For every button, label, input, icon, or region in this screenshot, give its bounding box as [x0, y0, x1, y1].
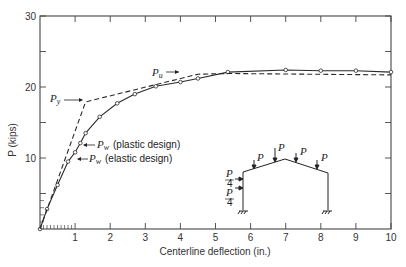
x-tick-label: 9 [353, 232, 359, 243]
plot-frame [40, 16, 391, 229]
x-tick-label: 10 [385, 232, 397, 243]
series-experimental-line [40, 70, 391, 229]
svg-text:(elastic design): (elastic design) [105, 153, 172, 164]
annotation-py: Py [49, 92, 83, 106]
svg-text:Py: Py [49, 92, 61, 106]
svg-text:Pw: Pw [96, 138, 110, 152]
x-tick-label: 6 [248, 232, 254, 243]
data-point-marker [115, 102, 119, 106]
x-tick-label: 1 [72, 232, 78, 243]
x-tick-label: 5 [213, 232, 219, 243]
data-point-marker [133, 92, 137, 96]
annotation-pu: Pu [151, 66, 179, 80]
svg-text:(plastic design): (plastic design) [113, 139, 180, 150]
annotation-pw-elastic: Pw (elastic design) [77, 152, 172, 166]
data-point-marker [79, 141, 83, 145]
svg-text:P: P [320, 151, 328, 163]
data-series [38, 68, 393, 231]
svg-text:P: P [277, 141, 285, 153]
load-deflection-chart: 12345678910102030 Centerline deflection … [0, 0, 406, 267]
svg-text:P (kips): P (kips) [7, 123, 18, 157]
y-axis-label: P (kips) [7, 123, 18, 157]
gable-frame-inset [225, 148, 332, 214]
x-tick-label: 7 [283, 232, 289, 243]
data-point-marker [154, 84, 158, 88]
annotation-pw-plastic: Pw (plastic design) [83, 138, 180, 152]
data-point-marker [196, 77, 200, 81]
x-tick-label: 3 [143, 232, 149, 243]
data-point-marker [98, 115, 102, 119]
x-axis-label: Centerline deflection (in.) [159, 246, 270, 257]
data-point-marker [73, 151, 77, 155]
svg-text:4: 4 [227, 197, 233, 208]
svg-text:P: P [299, 145, 307, 157]
data-point-marker [389, 70, 393, 74]
data-point-marker [84, 131, 88, 135]
gable-frame-labels: P P P P P 4 P 4 [225, 141, 328, 208]
y-tick-label: 30 [25, 11, 37, 22]
y-tick-label: 20 [25, 82, 37, 93]
data-point-marker [354, 69, 358, 73]
data-point-marker [179, 80, 183, 84]
x-tick-label: 4 [178, 232, 184, 243]
y-tick-label: 10 [25, 153, 37, 164]
svg-text:Pw: Pw [88, 152, 102, 166]
svg-text:Pu: Pu [151, 66, 163, 80]
data-point-marker [66, 160, 70, 164]
plot-area [40, 16, 391, 229]
data-point-marker [319, 69, 323, 73]
data-point-marker [284, 68, 288, 72]
svg-text:P: P [256, 151, 264, 163]
x-tick-label: 2 [107, 232, 113, 243]
axis-ticks: 12345678910102030 [25, 11, 397, 243]
x-tick-label: 8 [318, 232, 324, 243]
